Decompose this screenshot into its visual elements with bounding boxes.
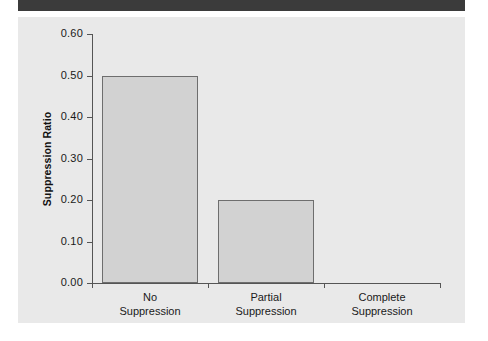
y-tick-label: 0.00 [61, 276, 83, 288]
y-tick: 0.50 [87, 76, 92, 77]
category-label-line: Suppression [92, 305, 208, 319]
y-tick-label: 0.20 [61, 193, 83, 205]
y-tick: 0.20 [87, 200, 92, 201]
y-axis-title: Suppression Ratio [41, 112, 53, 206]
category-label-line: No [92, 291, 208, 305]
bar [102, 76, 197, 284]
y-tick-label: 0.10 [61, 235, 83, 247]
y-tick-label: 0.40 [61, 110, 83, 122]
y-axis-line [92, 34, 93, 284]
category-label-line: Partial [208, 291, 324, 305]
category-label-line: Complete [324, 291, 440, 305]
y-tick-label: 0.60 [61, 27, 83, 39]
y-tick: 0.30 [87, 159, 92, 160]
category-label-line: Suppression [208, 305, 324, 319]
figure-page: Suppression Ratio 0.000.100.200.300.400.… [0, 0, 488, 341]
y-tick: 0.60 [87, 34, 92, 35]
y-tick: 0.40 [87, 117, 92, 118]
bar [218, 200, 313, 283]
x-axis-line [92, 283, 440, 284]
y-tick-label: 0.30 [61, 152, 83, 164]
category-label-line: Suppression [324, 305, 440, 319]
category-label: PartialSuppression [208, 291, 324, 318]
category-label: CompleteSuppression [324, 291, 440, 318]
x-tick [208, 283, 209, 288]
x-tick [440, 283, 441, 288]
y-tick: 0.10 [87, 242, 92, 243]
x-tick [324, 283, 325, 288]
y-tick-label: 0.50 [61, 69, 83, 81]
x-tick [92, 283, 93, 288]
header-band [18, 0, 465, 11]
category-label: NoSuppression [92, 291, 208, 318]
plot-area: Suppression Ratio 0.000.100.200.300.400.… [18, 17, 465, 323]
chart-panel: Suppression Ratio 0.000.100.200.300.400.… [18, 17, 465, 323]
